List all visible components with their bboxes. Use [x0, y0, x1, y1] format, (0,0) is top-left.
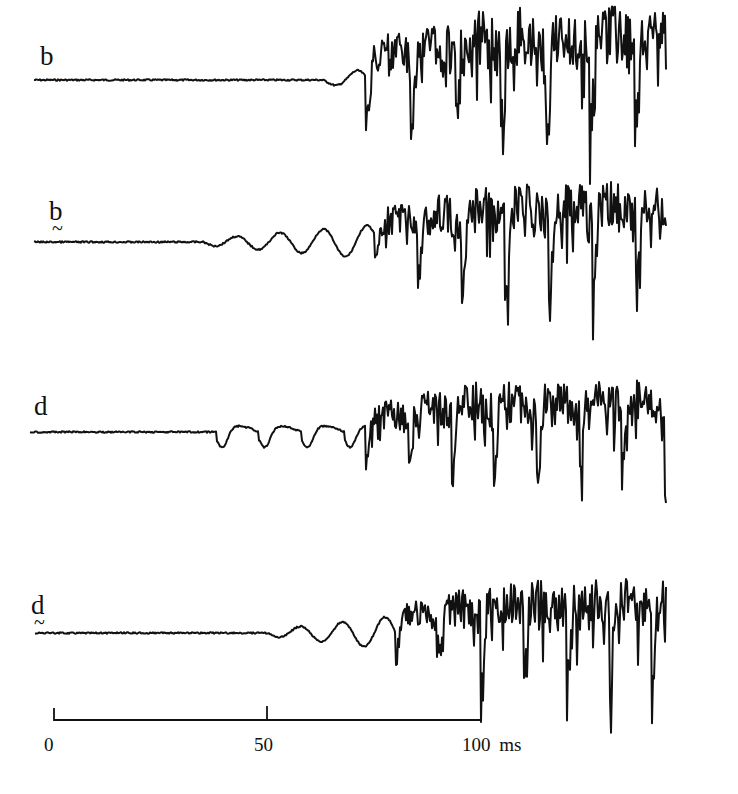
waveform-trace-2	[34, 182, 666, 339]
time-scale-bar	[54, 705, 481, 720]
scale-tick-0: 0	[44, 734, 54, 756]
waveform-trace-3	[30, 381, 666, 504]
waveform-plot	[0, 0, 738, 794]
waveform-trace-4	[35, 579, 666, 733]
scale-tick-50: 50	[254, 734, 273, 756]
waveform-trace-1	[34, 6, 666, 184]
scale-tick-100: 100 ms	[462, 734, 521, 756]
